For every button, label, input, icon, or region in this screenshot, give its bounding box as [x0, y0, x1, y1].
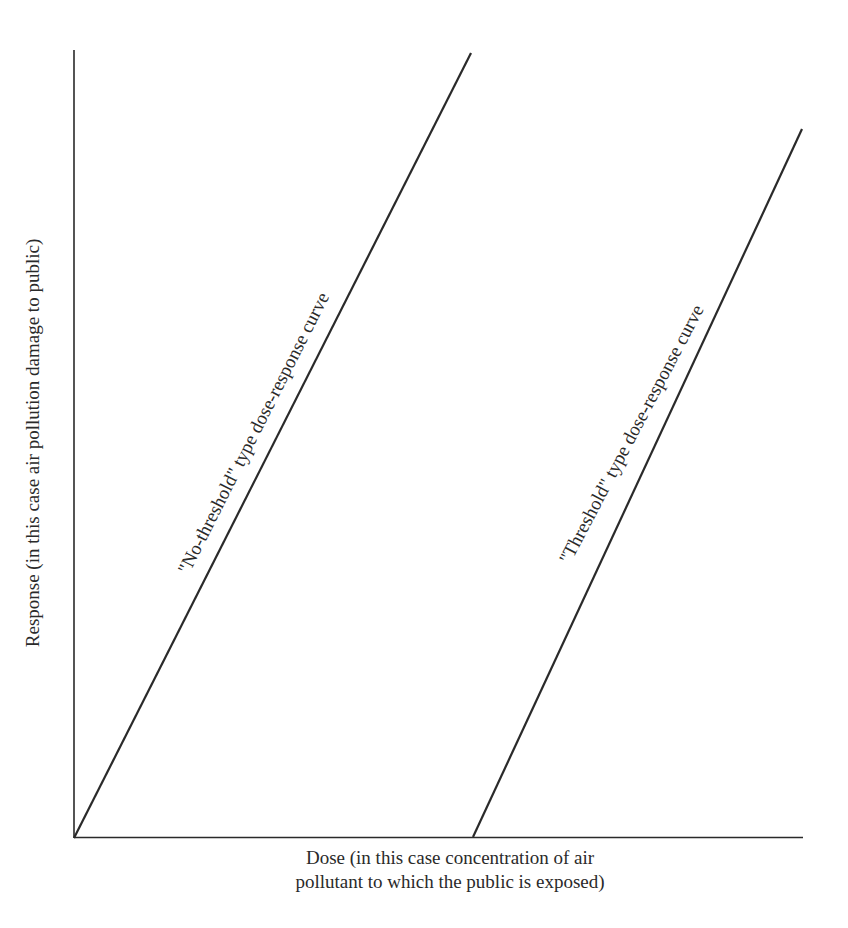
no-threshold-curve [74, 53, 471, 838]
no-threshold-curve-label: "No-threshold" type dose-response curve [173, 289, 333, 577]
dose-response-diagram: "No-threshold" type dose-response curve … [0, 0, 848, 928]
x-axis-label: Dose (in this case concentration of air … [200, 846, 700, 894]
y-axis-label: Response (in this case air pollution dam… [22, 239, 44, 647]
x-axis-label-line-1: Dose (in this case concentration of air [200, 846, 700, 870]
x-axis-label-line-2: pollutant to which the public is exposed… [200, 870, 700, 894]
threshold-curve [473, 129, 802, 837]
threshold-curve-label: "Threshold" type dose-response curve [555, 301, 708, 567]
